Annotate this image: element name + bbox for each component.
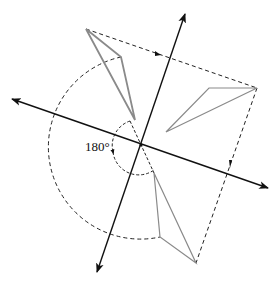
dashed-path-right: [196, 88, 257, 263]
arrow-head-top-icon: [155, 51, 161, 56]
axis-line-1: [97, 14, 185, 272]
axis-line-2: [12, 99, 268, 188]
arrow-head-right-icon: [229, 160, 232, 168]
dashed-path-top: [86, 29, 257, 88]
rotation-diagram: 180°: [0, 0, 278, 284]
triangle-rotated-180: [154, 173, 196, 263]
center-point: [139, 143, 142, 146]
triangle-original: [86, 29, 135, 120]
angle-label: 180°: [85, 139, 110, 154]
triangle-reflected-right: [166, 88, 257, 132]
